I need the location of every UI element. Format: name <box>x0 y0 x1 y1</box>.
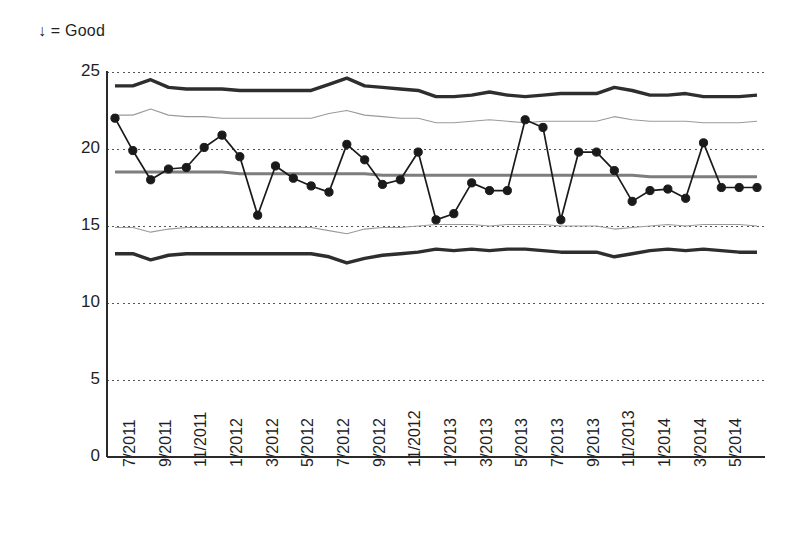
data-point-marker <box>717 183 725 191</box>
data-point-marker <box>378 180 386 188</box>
data-point-marker <box>396 176 404 184</box>
data-point-marker <box>557 216 565 224</box>
warning-limit-line <box>115 109 757 123</box>
data-point-marker <box>307 182 315 190</box>
data-point-marker <box>325 188 333 196</box>
data-point-marker <box>147 176 155 184</box>
data-point-marker <box>699 139 707 147</box>
data-point-marker <box>735 183 743 191</box>
data-point-marker <box>610 166 618 174</box>
data-point-marker <box>200 143 208 151</box>
data-point-marker <box>646 186 654 194</box>
data-point-marker <box>503 186 511 194</box>
data-point-marker <box>111 114 119 122</box>
data-point-marker <box>361 156 369 164</box>
data-point-marker <box>129 146 137 154</box>
data-point-marker <box>468 179 476 187</box>
data-point-marker <box>164 165 172 173</box>
data-point-marker <box>628 197 636 205</box>
plot-area <box>0 0 803 558</box>
data-point-marker <box>182 163 190 171</box>
data-point-marker <box>450 210 458 218</box>
data-point-marker <box>343 140 351 148</box>
data-point-marker <box>682 194 690 202</box>
data-point-marker <box>432 216 440 224</box>
data-point-marker <box>539 123 547 131</box>
control-limit-line <box>115 249 757 263</box>
center-line <box>115 172 757 177</box>
control-chart: ↓ = Good Rate 0510152025 7/20119/201111/… <box>0 0 803 558</box>
data-point-marker <box>575 148 583 156</box>
data-point-marker <box>485 186 493 194</box>
data-point-marker <box>414 148 422 156</box>
data-point-marker <box>521 116 529 124</box>
data-point-marker <box>753 183 761 191</box>
data-point-marker <box>254 211 262 219</box>
data-point-marker <box>592 148 600 156</box>
data-point-marker <box>271 162 279 170</box>
data-point-marker <box>218 131 226 139</box>
data-series-line <box>115 118 757 220</box>
data-point-marker <box>289 174 297 182</box>
control-limit-line <box>115 78 757 96</box>
data-point-marker <box>236 153 244 161</box>
data-point-marker <box>664 185 672 193</box>
